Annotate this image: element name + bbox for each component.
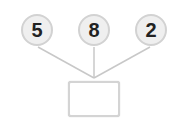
whole-answer-box[interactable] (68, 81, 120, 117)
part-circle-1: 5 (21, 14, 53, 46)
part-circle-2: 8 (78, 14, 110, 46)
part-value-2: 8 (88, 19, 99, 42)
part-value-1: 5 (31, 19, 42, 42)
part-circle-3: 2 (135, 14, 167, 46)
part-value-3: 2 (145, 19, 156, 42)
